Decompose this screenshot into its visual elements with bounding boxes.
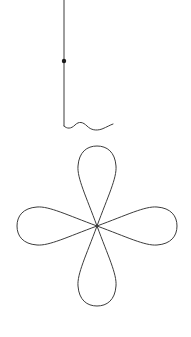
cord-bead-dot: [62, 59, 66, 63]
canvas-background: [0, 0, 191, 337]
line-drawing: [0, 0, 191, 337]
drawing-canvas: [0, 0, 191, 337]
